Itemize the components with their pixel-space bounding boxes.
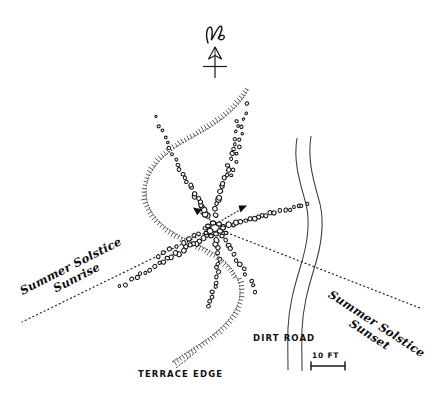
terrace-hachure: [235, 101, 239, 104]
stone: [232, 147, 236, 151]
stone: [235, 152, 239, 156]
terrace-hachure: [215, 118, 218, 122]
terrace-hachure: [177, 359, 179, 362]
terrace-hachure: [191, 350, 193, 353]
stone: [176, 167, 181, 172]
stone: [176, 163, 180, 167]
stone: [156, 254, 161, 259]
stone: [161, 250, 165, 254]
terrace-hachure: [178, 141, 180, 145]
terrace-hachure: [172, 145, 175, 149]
stone: [138, 271, 142, 275]
stone: [242, 117, 245, 120]
terrace-hachure: [239, 96, 243, 99]
terrace-hachure: [152, 165, 155, 167]
terrace-hachure: [154, 162, 157, 164]
terrace-hachure: [143, 202, 147, 203]
stone: [249, 279, 254, 284]
stone: [216, 269, 222, 275]
cairn-stone: [221, 226, 226, 230]
terrace-hachure: [234, 312, 238, 315]
stone: [144, 271, 147, 275]
terrace-hachure: [143, 185, 146, 186]
terrace-hachure: [201, 127, 204, 131]
stone: [292, 205, 295, 208]
terrace-hachure: [214, 254, 216, 257]
stone: [157, 125, 161, 129]
sightline-arrow-northeast: [219, 206, 247, 223]
cairn-stone: [224, 231, 228, 234]
stone: [167, 246, 173, 251]
terrace-hachure: [188, 352, 190, 356]
terrace-hachure: [243, 91, 246, 93]
stone: [288, 208, 292, 212]
north-arrow: [203, 26, 227, 78]
stone: [242, 266, 247, 271]
terrace-hachure: [223, 112, 226, 115]
terrace-hachure: [208, 339, 210, 342]
terrace-hachure: [224, 325, 227, 328]
stone: [157, 261, 162, 265]
terrace-hachure: [199, 129, 201, 133]
terrace-hachure: [205, 249, 207, 253]
terrace-hachure: [148, 212, 152, 214]
terrace-hachure: [219, 330, 222, 334]
stone: [167, 146, 172, 151]
stone: [186, 236, 191, 241]
stone: [161, 129, 165, 133]
terrace-hachure: [231, 273, 234, 275]
stone: [237, 145, 241, 149]
stone: [229, 151, 235, 157]
terrace-hachure: [230, 318, 233, 320]
terrace-hachure: [182, 355, 184, 358]
stone: [206, 304, 210, 308]
stone: [223, 237, 228, 242]
terrace-hachure: [158, 156, 161, 159]
cairn-stone: [214, 232, 219, 236]
cairn-stone: [209, 234, 213, 238]
cairn-stone: [220, 234, 224, 237]
terrace-hachure: [218, 117, 221, 120]
stone: [233, 143, 236, 147]
stone: [161, 260, 166, 265]
stone: [192, 191, 197, 196]
stone: [231, 168, 235, 172]
terrace-hachure: [199, 246, 201, 250]
stone: [174, 157, 178, 161]
terrace-hachure: [149, 167, 153, 169]
scale-bar-label: 10 FT: [312, 351, 339, 360]
stone: [147, 268, 151, 273]
stone: [283, 207, 288, 212]
stone: [174, 244, 179, 249]
terrace-hachure: [178, 236, 180, 239]
terrace-hachure: [205, 341, 208, 345]
label-dirt-road: DIRT ROAD: [253, 333, 315, 343]
stone: [183, 176, 186, 180]
stone: [123, 282, 128, 287]
stone: [197, 232, 201, 236]
stone: [230, 174, 233, 177]
stone: [231, 252, 236, 257]
terrace-hachure: [233, 276, 236, 278]
terrace-hachure: [146, 209, 150, 211]
stone: [217, 257, 222, 262]
terrace-hachure: [240, 285, 244, 286]
terrace-hachure: [155, 158, 159, 161]
terrace-hachure: [204, 125, 206, 129]
stone: [234, 130, 238, 134]
terrace-hachure: [142, 199, 147, 200]
terrace-hachure: [154, 220, 157, 223]
terrace-hachure: [231, 106, 234, 109]
stone: [251, 283, 255, 287]
terrace-hachure: [152, 217, 155, 220]
terrace-hachure: [238, 278, 242, 279]
terrace-hachure: [174, 361, 177, 365]
stone: [235, 119, 239, 123]
stone: [213, 284, 217, 288]
terrace-hachure: [174, 234, 176, 238]
terrace-hachure: [194, 348, 196, 351]
stone: [166, 141, 169, 144]
terrace-hachure: [211, 337, 213, 340]
terrace-hachure: [193, 133, 195, 136]
terrace-hachure: [144, 181, 147, 182]
